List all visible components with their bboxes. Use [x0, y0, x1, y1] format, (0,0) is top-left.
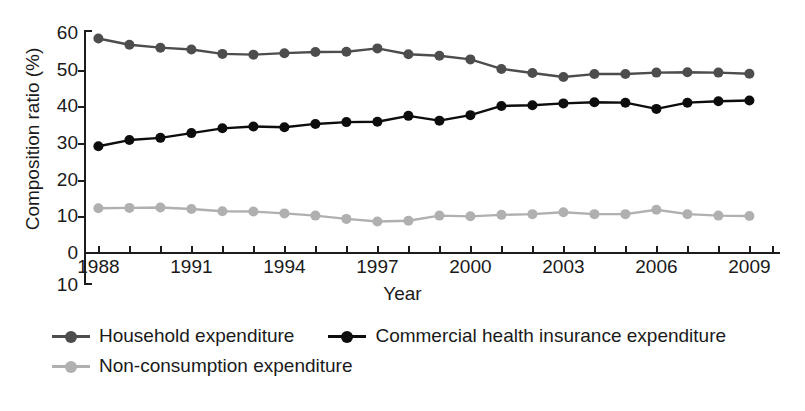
- data-point-marker: [93, 141, 103, 151]
- series-line: [98, 100, 749, 146]
- legend-marker-icon: [328, 329, 366, 343]
- data-point-marker: [434, 116, 444, 126]
- y-tick-label: 20: [32, 170, 78, 189]
- data-point-marker: [186, 128, 196, 138]
- data-point-marker: [496, 64, 506, 74]
- x-tick-mark: [594, 246, 596, 253]
- data-point-marker: [341, 214, 351, 224]
- data-point-marker: [713, 68, 723, 78]
- x-tick-mark: [501, 246, 503, 253]
- data-point-marker: [155, 203, 165, 213]
- x-tick-mark: [408, 246, 410, 253]
- x-tick-mark: [718, 246, 720, 253]
- data-point-marker: [372, 216, 382, 226]
- data-point-marker: [651, 205, 661, 215]
- data-point-marker: [186, 45, 196, 55]
- data-point-marker: [279, 122, 289, 132]
- data-point-marker: [124, 135, 134, 145]
- x-axis-line: [84, 252, 780, 254]
- data-point-marker: [248, 122, 258, 132]
- x-tick-label: 1997: [347, 256, 407, 278]
- series-line: [98, 208, 749, 222]
- data-point-marker: [310, 211, 320, 221]
- data-point-marker: [744, 211, 754, 221]
- y-tick-label: 40: [32, 96, 78, 115]
- chart-figure: Composition ratio (%) 010203040506010 19…: [0, 0, 805, 411]
- data-point-marker: [403, 49, 413, 59]
- series-line: [98, 39, 749, 78]
- data-point-marker: [434, 51, 444, 61]
- y-tick-mark: [78, 180, 85, 182]
- x-tick-mark: [625, 246, 627, 253]
- y-tick-label: 50: [32, 60, 78, 79]
- legend-label: Non-consumption expenditure: [99, 355, 353, 377]
- data-point-marker: [341, 47, 351, 57]
- y-tick-label: 30: [32, 133, 78, 152]
- data-point-marker: [434, 211, 444, 221]
- y-tick-label: 60: [32, 23, 78, 42]
- data-point-marker: [682, 67, 692, 77]
- legend-item[interactable]: Commercial health insurance expenditure: [328, 325, 726, 347]
- x-tick-label: 2009: [719, 256, 779, 278]
- x-tick-mark: [470, 246, 472, 253]
- data-point-marker: [744, 69, 754, 79]
- y-tick-mark: [78, 106, 85, 108]
- data-point-marker: [217, 49, 227, 59]
- data-point-marker: [589, 69, 599, 79]
- legend-label: Household expenditure: [99, 325, 294, 347]
- x-tick-label: 1988: [68, 256, 128, 278]
- x-tick-label: 2000: [440, 256, 500, 278]
- y-axis-line: [84, 30, 86, 285]
- series-2: [93, 95, 754, 151]
- legend-label: Commercial health insurance expenditure: [375, 325, 726, 347]
- x-tick-mark: [253, 246, 255, 253]
- y-tick-mark: [78, 216, 85, 218]
- series-3: [93, 203, 754, 227]
- data-point-marker: [620, 98, 630, 108]
- data-point-marker: [620, 209, 630, 219]
- y-tick-mark: [78, 143, 85, 145]
- data-point-marker: [372, 117, 382, 127]
- data-point-marker: [558, 72, 568, 82]
- data-point-marker: [403, 216, 413, 226]
- data-point-marker: [496, 101, 506, 111]
- data-point-marker: [372, 43, 382, 53]
- x-tick-label: 2003: [533, 256, 593, 278]
- x-tick-mark: [687, 246, 689, 253]
- legend-item[interactable]: Non-consumption expenditure: [52, 355, 353, 377]
- data-point-marker: [744, 95, 754, 105]
- y-tick-mark: [78, 70, 85, 72]
- data-point-marker: [186, 204, 196, 214]
- data-point-marker: [465, 110, 475, 120]
- data-point-marker: [651, 104, 661, 114]
- data-point-marker: [124, 203, 134, 213]
- legend-item[interactable]: Household expenditure: [52, 325, 294, 347]
- data-point-marker: [93, 34, 103, 44]
- y-axis-top-cap: [84, 30, 92, 32]
- data-point-marker: [310, 119, 320, 129]
- x-tick-mark: [98, 246, 100, 253]
- data-point-marker: [713, 211, 723, 221]
- data-point-marker: [217, 123, 227, 133]
- data-point-marker: [279, 48, 289, 58]
- data-point-marker: [465, 211, 475, 221]
- x-tick-label: 1994: [254, 256, 314, 278]
- data-point-marker: [496, 210, 506, 220]
- legend-marker-icon: [52, 359, 90, 373]
- data-point-marker: [651, 68, 661, 78]
- y-tick-label: 10: [32, 206, 78, 225]
- data-point-marker: [620, 69, 630, 79]
- data-point-marker: [248, 207, 258, 217]
- chart-legend: Household expenditureCommercial health i…: [52, 325, 797, 385]
- data-point-marker: [341, 117, 351, 127]
- data-point-marker: [155, 133, 165, 143]
- data-point-marker: [465, 54, 475, 64]
- x-tick-mark: [284, 246, 286, 253]
- x-tick-mark: [377, 246, 379, 253]
- x-tick-label: 1991: [161, 256, 221, 278]
- x-tick-mark: [439, 246, 441, 253]
- data-point-marker: [713, 96, 723, 106]
- data-point-marker: [279, 208, 289, 218]
- data-point-marker: [558, 98, 568, 108]
- x-axis-right-cap: [772, 246, 774, 254]
